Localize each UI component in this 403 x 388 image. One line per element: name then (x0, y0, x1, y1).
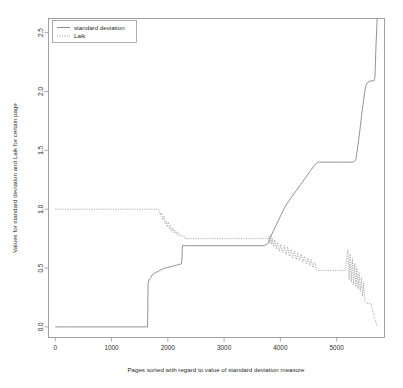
y-tick-label: 0.5 (37, 263, 44, 272)
legend-label-standard-deviation: standard deviation (74, 24, 125, 31)
chart-figure: 0.00.51.01.52.02.5 010002000300040005000… (0, 0, 403, 388)
x-tick-label: 2000 (161, 344, 176, 351)
chart-legend: standard deviation Laik (53, 21, 137, 43)
y-axis-title: Values for standard deviation and Laik f… (11, 103, 18, 253)
x-tick-label: 3000 (217, 344, 232, 351)
y-tick-label: 2.0 (37, 87, 44, 96)
legend-label-laik: Laik (74, 32, 86, 39)
x-tick-label: 1000 (104, 344, 119, 351)
x-tick-label: 5000 (330, 344, 345, 351)
y-tick-label: 0.0 (37, 322, 44, 331)
y-tick-label: 1.0 (37, 204, 44, 213)
x-axis-title: Pages sorted with regard to value of sta… (127, 366, 305, 373)
figure-background (0, 0, 403, 388)
y-tick-label: 2.5 (37, 28, 44, 37)
x-tick-label: 0 (53, 344, 57, 351)
x-tick-label: 4000 (273, 344, 288, 351)
y-tick-label: 1.5 (37, 145, 44, 154)
chart-canvas: 0.00.51.01.52.02.5 010002000300040005000… (0, 0, 403, 388)
